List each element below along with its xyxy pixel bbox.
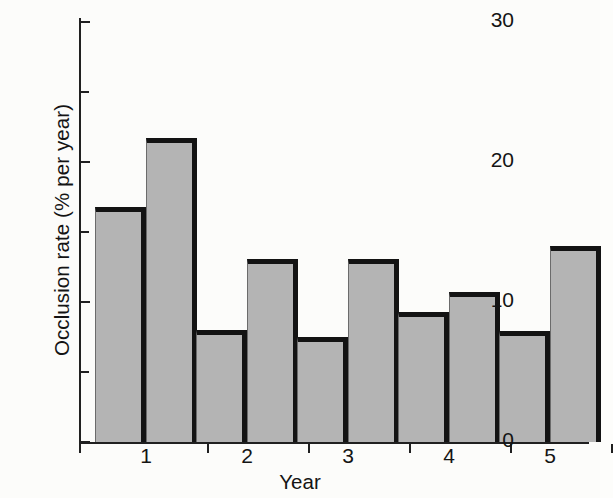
y-axis-tick <box>81 441 90 443</box>
x-axis-origin-tick <box>79 444 81 453</box>
y-axis-tick-label: 20 <box>491 148 514 172</box>
bar <box>297 337 348 442</box>
y-axis-tick <box>81 301 90 303</box>
y-axis-minor-tick <box>81 91 89 93</box>
bar <box>550 246 601 442</box>
y-axis-tick-label: 30 <box>491 8 514 32</box>
x-axis-tick-label: 4 <box>419 444 479 468</box>
x-axis-tick <box>409 444 411 453</box>
x-axis-tick-label: 5 <box>520 444 580 468</box>
y-axis-minor-tick <box>81 231 89 233</box>
y-axis-title: Occlusion rate (% per year) <box>50 50 74 410</box>
y-axis-tick <box>81 21 90 23</box>
y-axis-tick <box>81 161 90 163</box>
x-axis-tick-label: 3 <box>318 444 378 468</box>
bar <box>95 207 146 442</box>
bar <box>449 292 500 442</box>
bar <box>348 259 399 442</box>
x-axis-tick-label: 1 <box>116 444 176 468</box>
x-axis-tick <box>207 444 209 453</box>
x-axis-tick-label: 2 <box>217 444 277 468</box>
x-axis-tick <box>308 444 310 453</box>
y-axis-tick-label: 0 <box>502 428 514 452</box>
y-axis-tick-label: 10 <box>491 288 514 312</box>
bar <box>196 330 247 442</box>
bar <box>247 259 298 442</box>
bar <box>398 312 449 442</box>
x-axis-title: Year <box>0 470 600 494</box>
y-axis-minor-tick <box>81 371 89 373</box>
bar <box>146 138 197 442</box>
bar <box>499 331 550 442</box>
plot-area <box>79 18 587 442</box>
